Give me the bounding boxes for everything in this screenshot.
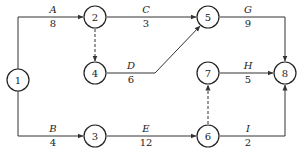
node-4-label: 4 <box>92 68 98 79</box>
node-1: 1 <box>7 69 29 91</box>
node-3-label: 3 <box>92 131 98 142</box>
node-6: 6 <box>197 125 219 147</box>
network-diagram: A 8 B 4 C 3 D 6 E 12 G 9 H 5 I 2 1 2 3 4… <box>0 0 301 158</box>
activity-I-arrow <box>220 85 285 136</box>
activity-G-name: G <box>244 4 252 15</box>
node-7-label: 7 <box>205 68 211 79</box>
node-7: 7 <box>197 62 219 84</box>
activity-I-name: I <box>245 123 251 134</box>
node-2: 2 <box>84 6 106 28</box>
activity-I-duration: 2 <box>245 137 251 148</box>
activity-B-name: B <box>48 123 56 134</box>
activity-G-duration: 9 <box>245 18 251 29</box>
activity-D-arrow <box>107 26 200 73</box>
node-8-label: 8 <box>282 68 288 79</box>
activity-C-duration: 3 <box>143 18 149 29</box>
node-3: 3 <box>84 125 106 147</box>
node-6-label: 6 <box>205 131 211 142</box>
activity-E-duration: 12 <box>140 137 153 148</box>
activity-D-name: D <box>126 60 135 71</box>
node-2-label: 2 <box>92 12 98 23</box>
activity-H-duration: 5 <box>245 74 251 85</box>
activity-E-name: E <box>141 123 150 134</box>
node-4: 4 <box>84 62 106 84</box>
node-1-label: 1 <box>15 75 21 86</box>
node-5-label: 5 <box>205 12 211 23</box>
activity-G-arrow <box>220 17 285 61</box>
activity-H-name: H <box>243 60 253 71</box>
activity-B-duration: 4 <box>50 137 56 148</box>
activity-D-duration: 6 <box>128 74 134 85</box>
node-8: 8 <box>274 62 296 84</box>
activity-A-name: A <box>48 4 56 15</box>
activity-A-duration: 8 <box>50 18 56 29</box>
activity-C-name: C <box>142 4 150 15</box>
node-5: 5 <box>197 6 219 28</box>
